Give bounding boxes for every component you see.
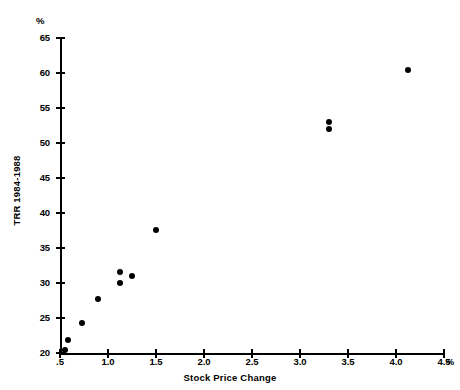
data-point xyxy=(79,320,85,326)
data-point xyxy=(405,67,411,73)
data-point xyxy=(326,126,332,132)
data-point xyxy=(117,269,123,275)
data-point xyxy=(129,273,135,279)
data-point xyxy=(117,280,123,286)
data-point xyxy=(65,337,71,343)
data-point xyxy=(326,119,332,125)
plot-area xyxy=(0,0,460,390)
data-point xyxy=(153,227,159,233)
data-point xyxy=(95,296,101,302)
scatter-chart: % % TRR 1984-1988 Stock Price Change 202… xyxy=(0,0,460,390)
data-point xyxy=(62,347,68,353)
